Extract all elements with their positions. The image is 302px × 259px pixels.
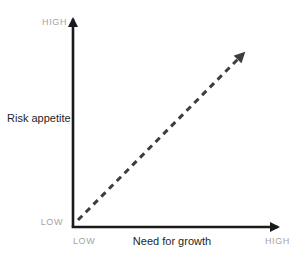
risk-growth-chart: HIGH LOW Risk appetite LOW HIGH Need for… <box>0 0 302 259</box>
trend-line <box>78 54 243 220</box>
y-axis-high-label: HIGH <box>42 18 67 27</box>
x-axis-high-label: HIGH <box>265 237 290 246</box>
x-axis-title: Need for growth <box>110 236 234 247</box>
x-axis-low-label: LOW <box>73 237 95 246</box>
y-axis-title: Risk appetite <box>7 113 71 124</box>
y-axis-low-label: LOW <box>41 218 63 227</box>
